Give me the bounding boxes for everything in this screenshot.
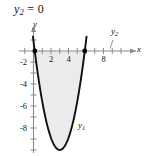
- x-tick-label-2: 2: [46, 54, 56, 64]
- graph-figure: y2 = 0: [0, 0, 148, 156]
- y-tick-label-neg8: -8: [13, 123, 27, 133]
- y2-leader-line: [110, 40, 113, 49]
- y-tick-label-neg6: -6: [13, 101, 27, 111]
- curve-label-y2: y2: [111, 26, 118, 37]
- intersection-point-right: [82, 49, 87, 54]
- x-tick-label-8: 8: [99, 54, 109, 64]
- curve-label-y1-subscript: 1: [82, 124, 85, 131]
- x-axis-arrowhead: [130, 48, 136, 53]
- x-axis-label: x: [137, 44, 141, 54]
- y-tick-label-neg2: -2: [13, 57, 27, 67]
- y-axis-label: y: [33, 19, 37, 29]
- y-tick-label-neg4: -4: [13, 79, 27, 89]
- x-tick-label-4: 4: [64, 54, 74, 64]
- curve-label-y2-subscript: 2: [115, 30, 118, 37]
- intersection-point-left: [32, 49, 37, 54]
- curve-label-y1: y1: [78, 120, 85, 131]
